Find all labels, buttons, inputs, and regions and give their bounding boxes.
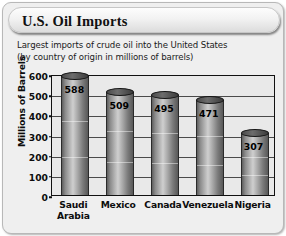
chart-subtitle: Largest imports of crude oil into the Un…	[17, 40, 275, 63]
bar-value-label: 509	[103, 100, 135, 111]
bar-value-label: 471	[193, 108, 225, 119]
bar-ring	[242, 175, 268, 176]
y-tick-label: 200	[29, 151, 48, 162]
y-tick-mark	[49, 136, 52, 138]
x-tick-label-line: Arabia	[41, 210, 105, 221]
plot-area: 6005004003002001000588509495471307	[51, 75, 275, 196]
bar-cap	[106, 88, 134, 96]
chart-card: U.S. Oil Imports Largest imports of crud…	[2, 2, 284, 234]
y-tick-mark	[49, 156, 52, 158]
y-tick-mark	[49, 116, 52, 118]
bar-ring	[197, 136, 223, 137]
subtitle-line-2: (by country of origin in millions of bar…	[17, 52, 275, 64]
bar-ring	[197, 165, 223, 166]
bar-ring	[62, 157, 88, 158]
bar-value-label: 588	[58, 84, 90, 95]
y-axis-title: Millions of Barrels	[16, 42, 27, 162]
y-tick-mark	[49, 75, 52, 77]
subtitle-line-1: Largest imports of crude oil into the Un…	[17, 40, 227, 50]
y-tick-label: 600	[29, 71, 48, 82]
y-tick-mark	[49, 95, 52, 97]
bar-value-label: 495	[148, 103, 180, 114]
y-tick-label: 500	[29, 91, 48, 102]
bar-value-label: 307	[238, 141, 270, 152]
bar-cap	[151, 91, 179, 99]
y-tick-mark	[49, 176, 52, 178]
bar-ring	[107, 131, 133, 132]
bar-ring	[152, 163, 178, 164]
page-title: U.S. Oil Imports	[22, 13, 128, 30]
bar-ring	[152, 133, 178, 134]
title-banner: U.S. Oil Imports	[8, 7, 280, 33]
x-tick-label-line: Saudi	[59, 199, 87, 210]
y-tick-label: 400	[29, 111, 48, 122]
bar-ring	[242, 157, 268, 158]
y-tick-label: 100	[29, 171, 48, 182]
bar-ring	[62, 121, 88, 122]
bar-cap	[61, 72, 89, 80]
y-tick-mark	[49, 196, 52, 198]
bar-cap	[196, 96, 224, 104]
bar-ring	[107, 162, 133, 163]
x-tick-label-line: Nigeria	[235, 199, 271, 210]
bar-cap	[241, 129, 269, 137]
x-tick-label: Nigeria	[221, 199, 285, 210]
chart-figure: U.S. Oil Imports Largest imports of crud…	[0, 0, 286, 236]
y-tick-label: 300	[29, 131, 48, 142]
